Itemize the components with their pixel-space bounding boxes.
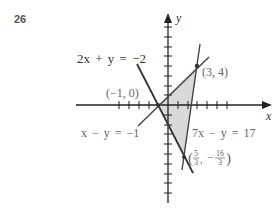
vertex-neg1-0 bbox=[156, 103, 160, 107]
vertex-5-3-neg16-3 bbox=[182, 155, 186, 159]
y-axis-label: y bbox=[175, 11, 182, 25]
label-x-minus-y: x − y = −1 bbox=[81, 126, 139, 140]
svg-text:−: − bbox=[207, 151, 213, 163]
svg-text:3: 3 bbox=[194, 158, 198, 167]
label-vertex-3-4: (3, 4) bbox=[202, 65, 228, 79]
y-axis-arrow-icon bbox=[164, 13, 172, 23]
x-axis-arrow-icon bbox=[262, 101, 272, 109]
svg-text:5: 5 bbox=[194, 149, 198, 158]
vertex-3-4 bbox=[195, 64, 199, 68]
label-vertex-5-3-neg16-3: ( 5 3 , − 16 3 ) bbox=[188, 149, 231, 167]
graph: y x 2x + y = −2 x − y = −1 7x − y = 17 (… bbox=[0, 0, 280, 215]
svg-text:16: 16 bbox=[216, 149, 224, 158]
svg-text:): ) bbox=[226, 150, 231, 167]
label-vertex-neg1-0: (−1, 0) bbox=[106, 86, 139, 100]
svg-text:3: 3 bbox=[218, 158, 222, 167]
label-2x-plus-y: 2x + y = −2 bbox=[77, 51, 146, 66]
svg-text:,: , bbox=[200, 154, 203, 165]
x-axis-label: x bbox=[265, 109, 272, 123]
svg-text:(: ( bbox=[188, 150, 193, 167]
label-7x-minus-y: 7x − y = 17 bbox=[192, 126, 256, 140]
